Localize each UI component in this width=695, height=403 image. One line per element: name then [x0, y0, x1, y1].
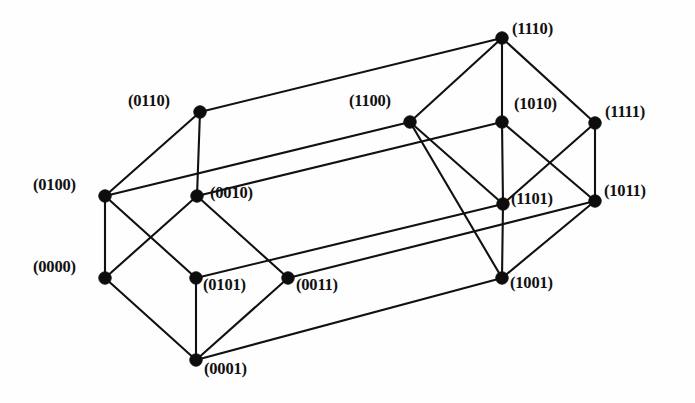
vertex-label-0100: (0100) [33, 177, 76, 194]
vertex-label-1111: (1111) [605, 104, 645, 121]
graph-edge [502, 122, 503, 204]
graph-edge [197, 112, 200, 196]
graph-vertex[interactable] [404, 116, 416, 128]
vertex-label-1110: (1110) [512, 21, 553, 38]
vertex-label-0011: (0011) [296, 277, 338, 294]
graph-edge [197, 196, 288, 278]
graph-vertex[interactable] [99, 190, 111, 202]
graph-edge [502, 204, 503, 278]
graph-vertex[interactable] [191, 190, 203, 202]
vertex-label-0000: (0000) [33, 259, 76, 276]
vertex-label-1011: (1011) [604, 183, 646, 200]
graph-vertex[interactable] [496, 116, 508, 128]
vertex-label-1101: (1101) [511, 191, 553, 208]
vertex-label-0110: (0110) [128, 93, 170, 110]
graph-edge [410, 38, 502, 122]
vertex-label-1010: (1010) [514, 96, 557, 113]
graph-vertex[interactable] [194, 106, 206, 118]
graph-edge [105, 278, 196, 360]
graph-edge [196, 204, 503, 278]
graph-edge [410, 122, 502, 278]
graph-vertex[interactable] [496, 272, 508, 284]
vertex-label-0001: (0001) [204, 361, 247, 378]
graph-edge [105, 122, 410, 196]
graph-vertex[interactable] [99, 272, 111, 284]
graph-vertex[interactable] [282, 272, 294, 284]
tesseract-figure: (0110)(0100)(0010)(0000)(0101)(0011)(000… [0, 0, 695, 403]
vertex-label-0101: (0101) [203, 277, 246, 294]
graph-vertex[interactable] [589, 195, 601, 207]
graph-edge [410, 122, 503, 204]
vertex-label-1001: (1001) [510, 275, 553, 292]
graph-vertex[interactable] [496, 32, 508, 44]
vertex-label-1100: (1100) [349, 93, 391, 110]
graph-canvas [0, 0, 695, 403]
graph-vertex[interactable] [190, 272, 202, 284]
graph-vertex[interactable] [497, 198, 509, 210]
vertex-label-0010: (0010) [210, 185, 253, 202]
graph-vertex[interactable] [190, 354, 202, 366]
graph-vertex[interactable] [589, 117, 601, 129]
